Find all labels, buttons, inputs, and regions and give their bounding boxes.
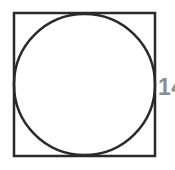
diagram-canvas: 14 <box>0 0 175 170</box>
inscribed-circle <box>14 14 155 155</box>
geometry-diagram: 14 <box>0 0 175 170</box>
side-length-label: 14 <box>158 74 175 100</box>
